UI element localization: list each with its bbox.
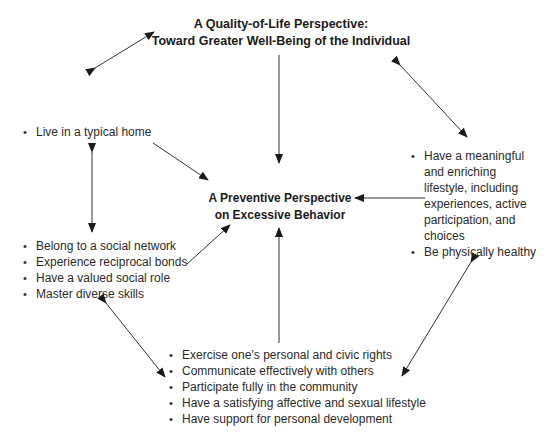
bottom-node: Exercise one’s personal and civic rights… xyxy=(168,347,426,427)
list-item: Exercise one’s personal and civic rights xyxy=(168,347,426,363)
top-node-line-1: A Quality-of-Life Perspective: xyxy=(146,16,416,33)
arrow-leftbottom-center xyxy=(187,225,230,264)
left-top-node: Live in a typical home xyxy=(22,124,151,140)
right-node: Have a meaningful and enriching lifestyl… xyxy=(410,148,558,260)
list-item: Participate fully in the community xyxy=(168,379,426,395)
list-item: Be physically healthy xyxy=(410,244,558,260)
center-node-preventive-perspective: A Preventive Perspective on Excessive Be… xyxy=(205,190,355,224)
list-item: Master diverse skills xyxy=(22,286,187,302)
left-bottom-node: Belong to a social network Experience re… xyxy=(22,238,187,302)
center-node-line-2: on Excessive Behavior xyxy=(205,207,355,224)
list-item: Have a satisfying affective and sexual l… xyxy=(168,395,426,411)
top-node-quality-of-life: A Quality-of-Life Perspective: Toward Gr… xyxy=(146,16,416,50)
list-item: Have support for personal development xyxy=(168,411,426,427)
list-item: Experience reciprocal bonds xyxy=(22,254,187,270)
list-item: Have a meaningful and enriching lifestyl… xyxy=(410,148,542,244)
list-item: Live in a typical home xyxy=(22,124,151,140)
arrow-top-right xyxy=(400,65,467,137)
arrow-leftbottom-bottom xyxy=(106,303,165,377)
top-node-line-2: Toward Greater Well-Being of the Individ… xyxy=(146,33,416,50)
list-item: Belong to a social network xyxy=(22,238,187,254)
list-item: Communicate effectively with others xyxy=(168,363,426,379)
center-node-line-1: A Preventive Perspective xyxy=(205,190,355,207)
arrow-lefttop-center xyxy=(153,143,208,180)
list-item: Have a valued social role xyxy=(22,270,187,286)
